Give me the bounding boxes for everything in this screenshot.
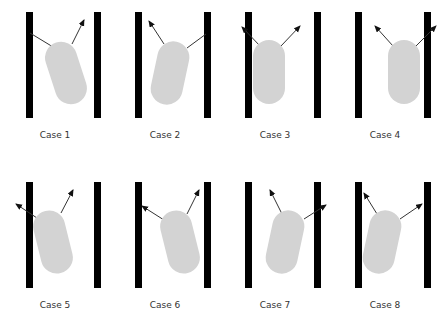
force-arrow-icon	[270, 190, 282, 214]
case-diagram	[110, 170, 220, 300]
case-panel-3: Case 3	[220, 0, 330, 162]
right-wall	[424, 182, 431, 288]
case-diagram	[0, 0, 110, 130]
right-wall	[94, 12, 101, 118]
capsule-body	[388, 40, 420, 104]
case-panel-2: Case 2	[110, 0, 220, 162]
left-wall	[135, 182, 142, 288]
case-label: Case 5	[0, 300, 110, 310]
case-label: Case 8	[330, 300, 440, 310]
case-panel-1: Case 1	[0, 0, 110, 162]
force-arrow-icon	[72, 20, 84, 44]
case-diagram	[330, 0, 440, 130]
right-wall	[204, 12, 211, 118]
force-arrow-icon	[375, 26, 393, 46]
case-label: Case 2	[110, 130, 220, 140]
case-panel-6: Case 6	[110, 170, 220, 324]
left-wall	[135, 12, 142, 118]
capsule-body	[148, 38, 193, 107]
force-arrow-icon	[61, 190, 73, 213]
left-wall	[245, 182, 252, 288]
capsule-body	[253, 40, 285, 104]
left-wall	[26, 182, 33, 288]
force-arrow-icon	[142, 206, 164, 220]
capsule-body	[360, 207, 405, 276]
case-label: Case 7	[220, 300, 330, 310]
force-arrow-icon	[187, 34, 206, 48]
left-wall	[245, 12, 252, 118]
right-wall	[94, 182, 101, 288]
capsule-body	[41, 38, 91, 109]
case-panel-8: Case 8	[330, 170, 440, 324]
left-wall	[355, 182, 362, 288]
case-diagram	[220, 0, 330, 130]
case-diagram	[0, 170, 110, 300]
case-panel-7: Case 7	[220, 170, 330, 324]
force-arrow-icon	[400, 204, 422, 219]
case-panel-4: Case 4	[330, 0, 440, 162]
case-diagram	[330, 170, 440, 300]
force-arrow-icon	[187, 190, 199, 214]
left-wall	[355, 12, 362, 118]
capsule-body	[30, 207, 77, 277]
case-label: Case 4	[330, 130, 440, 140]
force-arrow-icon	[149, 21, 164, 44]
force-arrow-icon	[281, 26, 300, 46]
case-label: Case 6	[110, 300, 220, 310]
capsule-body	[263, 207, 308, 276]
case-label: Case 1	[0, 130, 110, 140]
case-diagram	[110, 0, 220, 130]
right-wall	[314, 12, 321, 118]
left-wall	[26, 12, 33, 118]
force-arrow-icon	[364, 193, 377, 214]
case-diagram	[220, 170, 330, 300]
case-panel-5: Case 5	[0, 170, 110, 324]
right-wall	[424, 12, 431, 118]
capsule-body	[157, 207, 204, 277]
right-wall	[314, 182, 321, 288]
case-label: Case 3	[220, 130, 330, 140]
right-wall	[204, 182, 211, 288]
